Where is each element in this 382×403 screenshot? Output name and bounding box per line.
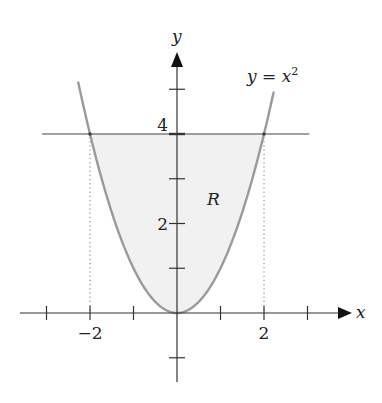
region-r-label: R bbox=[206, 189, 220, 209]
curve-equation-label: y = x2 bbox=[246, 65, 298, 86]
intersection-point bbox=[88, 132, 92, 136]
x-axis-arrowhead-icon bbox=[338, 307, 352, 319]
curve-label-var: x bbox=[282, 66, 292, 86]
y-tick-label: 2 bbox=[157, 214, 168, 234]
x-tick-labels: −22 bbox=[77, 323, 269, 343]
y-axis-arrowhead-icon bbox=[171, 52, 183, 67]
curve-label-exponent: 2 bbox=[291, 65, 298, 78]
intersection-point bbox=[262, 132, 266, 136]
x-axis-label: x bbox=[356, 302, 366, 322]
curve-label-eq: = bbox=[257, 66, 282, 86]
x-tick-label: 2 bbox=[259, 323, 270, 343]
parabola-region-diagram: x y −22 24 y = x2 R bbox=[0, 0, 382, 403]
y-axis-label: y bbox=[171, 26, 182, 46]
x-tick-label: −2 bbox=[77, 323, 102, 343]
curve-label-lhs: y bbox=[246, 66, 257, 86]
y-tick-label: 4 bbox=[157, 115, 168, 135]
